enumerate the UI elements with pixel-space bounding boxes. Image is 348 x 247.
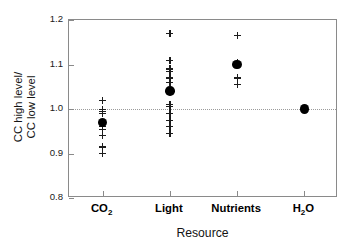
- data-point-plus: [234, 81, 241, 88]
- data-point-plus: [166, 30, 173, 37]
- x-axis-tick-mark: [237, 191, 238, 196]
- y-axis-tick-labels: 0.80.91.01.11.2: [37, 0, 63, 247]
- y-axis-tick-label: 1.0: [37, 103, 63, 113]
- x-axis-tick-mark: [304, 191, 305, 196]
- mean-dot-h2o: [300, 104, 310, 114]
- plot-area: [69, 20, 336, 196]
- x-axis-category-label-nutrients: Nutrients: [211, 203, 261, 214]
- data-point-plus: [99, 132, 106, 139]
- data-point-plus: [99, 110, 106, 117]
- y-axis-tick-label: 0.8: [37, 192, 63, 202]
- y-axis-title-line-1: CC high level/: [12, 72, 25, 142]
- y-axis-tick-mark: [69, 109, 74, 110]
- data-point-plus: [166, 57, 173, 64]
- data-point-plus: [99, 150, 106, 157]
- y-axis-tick-mark: [69, 198, 74, 199]
- data-point-plus: [166, 79, 173, 86]
- x-axis-title: Resource: [68, 226, 337, 240]
- plot-frame: [68, 19, 337, 197]
- y-axis-tick-label: 1.1: [37, 59, 63, 69]
- data-point-plus: [99, 97, 106, 104]
- figure-scatter-resource-cc-ratio: CC high level/ CC low level 0.80.91.01.1…: [0, 0, 348, 247]
- x-axis-category-label-co2: CO2: [91, 203, 112, 214]
- x-axis-tick-mark: [103, 191, 104, 196]
- x-axis-category-labels: CO2LightNutrientsH2O: [68, 203, 337, 221]
- mean-dot-light: [165, 86, 175, 96]
- y-axis-tick-label: 1.2: [37, 14, 63, 24]
- y-axis-tick-mark: [69, 20, 74, 21]
- y-axis-tick-mark: [69, 154, 74, 155]
- x-axis-tick-mark: [170, 191, 171, 196]
- mean-dot-nutrients: [232, 60, 242, 70]
- y-axis-tick-mark: [69, 65, 74, 66]
- data-point-plus: [166, 130, 173, 137]
- reference-line-1.0: [69, 109, 336, 110]
- x-axis-category-label-h2o: H2O: [293, 203, 314, 214]
- y-axis-tick-label: 0.9: [37, 148, 63, 158]
- x-axis-category-label-light: Light: [155, 203, 183, 214]
- data-point-plus: [234, 32, 241, 39]
